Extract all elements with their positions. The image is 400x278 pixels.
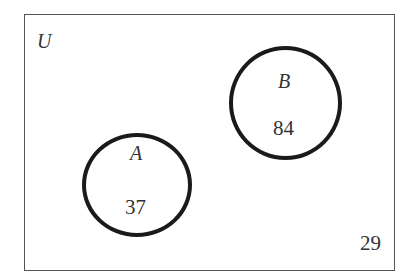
venn-diagram: U A 37 B 84 29 <box>0 0 400 278</box>
universal-set-label: U <box>37 31 51 51</box>
set-b-circle <box>229 46 342 160</box>
set-b-count: 84 <box>273 118 294 139</box>
outside-count: 29 <box>360 233 381 254</box>
set-a-label: A <box>130 143 142 163</box>
universal-set-box <box>24 14 395 271</box>
set-b-label: B <box>278 71 290 91</box>
set-a-count: 37 <box>125 197 146 218</box>
